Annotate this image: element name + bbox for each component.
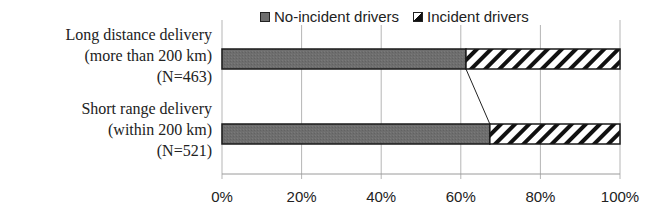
gridlines	[222, 20, 620, 179]
legend-swatch-solid-icon	[260, 12, 270, 22]
legend-label: Incident drivers	[427, 8, 529, 25]
bar-segment-no-incident	[222, 49, 466, 69]
legend-swatch-hatched-icon	[413, 12, 423, 22]
legend-label: No-incident drivers	[274, 8, 399, 25]
series-connector-line	[466, 69, 490, 124]
plot-area	[0, 0, 667, 218]
bars	[222, 49, 620, 144]
bar-segment-incident	[490, 124, 620, 144]
bar-segment-incident	[466, 49, 620, 69]
bar-segment-no-incident	[222, 124, 490, 144]
chart-legend: No-incident drivers Incident drivers	[256, 8, 547, 25]
stacked-bar-chart: No-incident drivers Incident drivers Lon…	[0, 0, 667, 218]
legend-item-incident: Incident drivers	[413, 8, 529, 25]
legend-item-no-incident: No-incident drivers	[260, 8, 399, 25]
